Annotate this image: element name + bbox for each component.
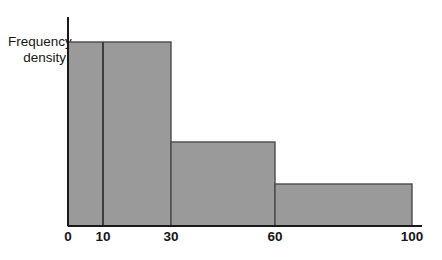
x-tick-label-60: 60 bbox=[267, 229, 282, 244]
x-tick-label-30: 30 bbox=[163, 229, 178, 244]
x-tick-label-0: 0 bbox=[64, 229, 72, 244]
x-tick-label-10: 10 bbox=[95, 229, 110, 244]
histogram-figure: Frequency density 0 10 30 60 100 bbox=[0, 0, 442, 260]
x-tick-label-100: 100 bbox=[401, 229, 424, 244]
histogram-bar-30-60 bbox=[171, 142, 275, 226]
histogram-bar-60-100 bbox=[275, 184, 412, 226]
histogram-plot: 0 10 30 60 100 bbox=[0, 0, 442, 260]
histogram-bar-0-30 bbox=[68, 42, 171, 226]
x-axis-tick-labels: 0 10 30 60 100 bbox=[64, 229, 423, 244]
histogram-bars bbox=[68, 42, 412, 226]
